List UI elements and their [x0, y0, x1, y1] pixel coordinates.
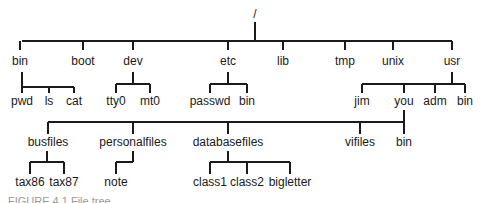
tree-node-cat: cat	[66, 94, 83, 108]
tree-node-databasefiles: databasefiles	[193, 135, 264, 149]
tree-node-tty0: tty0	[106, 94, 126, 108]
tree-node-adm: adm	[423, 94, 446, 108]
root-node-label: /	[253, 7, 257, 21]
tree-node-usr: usr	[444, 54, 461, 68]
tree-node-bin: bin	[396, 135, 412, 149]
tree-node-personalfiles: personalfiles	[99, 135, 166, 149]
tree-node-dev: dev	[123, 54, 142, 68]
directory-tree-diagram: binbootdevetclibtmpunixusrpwdlscattty0mt…	[0, 0, 484, 203]
tree-node-ls: ls	[45, 94, 54, 108]
tree-node-bin: bin	[239, 94, 255, 108]
tree-node-bin: bin	[457, 94, 473, 108]
tree-node-mt0: mt0	[140, 94, 160, 108]
tree-node-note: note	[104, 175, 128, 189]
tree-node-tax87: tax87	[49, 175, 79, 189]
tree-node-lib: lib	[277, 54, 289, 68]
tree-node-tax86: tax86	[15, 175, 45, 189]
tree-node-bigletter: bigletter	[269, 175, 312, 189]
tree-node-vifiles: vifiles	[345, 135, 375, 149]
tree-node-passwd: passwd	[190, 94, 231, 108]
tree-node-unix: unix	[382, 54, 404, 68]
tree-node-etc: etc	[220, 54, 236, 68]
tree-node-busfiles: busfiles	[28, 135, 69, 149]
figure-caption: FIGURE 4.1 File tree	[8, 195, 111, 203]
tree-node-jim: jim	[353, 94, 369, 108]
tree-node-class1: class1	[193, 175, 227, 189]
tree-node-boot: boot	[71, 54, 95, 68]
tree-node-tmp: tmp	[335, 54, 355, 68]
tree-node-bin: bin	[12, 54, 28, 68]
tree-node-class2: class2	[230, 175, 264, 189]
tree-node-you: you	[394, 94, 413, 108]
tree-node-pwd: pwd	[11, 94, 33, 108]
